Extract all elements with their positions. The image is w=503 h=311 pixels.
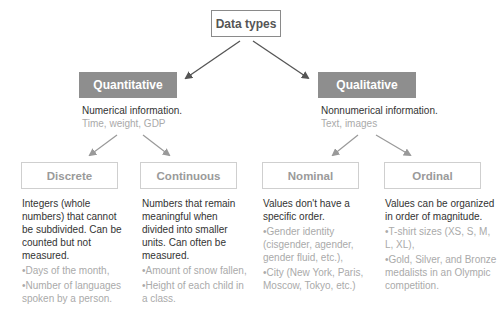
category-node-quantitative: Quantitative <box>79 72 177 98</box>
description-text: Integers (whole numbers) that cannot be … <box>22 197 125 262</box>
example-bullet: •Days of the month, <box>22 264 125 277</box>
examples-text: Text, images <box>321 117 471 130</box>
arrow-root-to-qualitative <box>253 41 308 78</box>
qualitative-description: Nonnumerical information. Text, images <box>321 104 471 130</box>
leaf-label: Continuous <box>157 170 221 182</box>
category-label: Qualitative <box>336 78 397 92</box>
example-bullet: •Height of each child in a class. <box>142 279 252 305</box>
arrow-quantitative-to-continuous <box>143 135 169 155</box>
description-text: Nonnumerical information. <box>321 104 471 117</box>
description-text: Numerical information. <box>82 104 232 117</box>
leaf-node-ordinal: Ordinal <box>384 162 481 189</box>
root-node-data-types: Data types <box>211 10 281 37</box>
leaf-node-continuous: Continuous <box>140 162 237 189</box>
ordinal-description: Values can be organized in order of magn… <box>385 197 499 292</box>
arrow-qualitative-to-ordinal <box>376 135 410 155</box>
description-text: Values don't have a specific order. <box>263 197 371 223</box>
quantitative-description: Numerical information. Time, weight, GDP <box>82 104 232 130</box>
arrow-qualitative-to-nominal <box>333 135 358 155</box>
leaf-node-nominal: Nominal <box>262 162 359 189</box>
example-bullet: •City (New York, Paris, Moscow, Tokyo, e… <box>263 266 371 292</box>
nominal-description: Values don't have a specific order. •Gen… <box>263 197 371 292</box>
description-text: Values can be organized in order of magn… <box>385 197 499 223</box>
arrow-root-to-quantitative <box>186 41 240 78</box>
leaf-label: Discrete <box>47 170 92 182</box>
leaf-node-discrete: Discrete <box>21 162 118 189</box>
category-node-qualitative: Qualitative <box>318 72 416 98</box>
example-bullet: •Gold, Silver, and Bronze medalists in a… <box>385 253 499 292</box>
continuous-description: Numbers that remain meaningful when divi… <box>142 197 252 305</box>
example-bullet: •Amount of snow fallen, <box>142 264 252 277</box>
arrow-quantitative-to-discrete <box>90 135 117 155</box>
root-label: Data types <box>216 17 277 31</box>
leaf-label: Ordinal <box>412 170 452 182</box>
leaf-label: Nominal <box>288 170 333 182</box>
example-bullet: •T-shirt sizes (XS, S, M, L, XL), <box>385 225 499 251</box>
examples-text: Time, weight, GDP <box>82 117 232 130</box>
discrete-description: Integers (whole numbers) that cannot be … <box>22 197 125 305</box>
category-label: Quantitative <box>93 78 162 92</box>
description-text: Numbers that remain meaningful when divi… <box>142 197 252 262</box>
example-bullet: •Gender identity (cisgender, agender, ge… <box>263 225 371 264</box>
example-bullet: •Number of languages spoken by a person. <box>22 279 125 305</box>
